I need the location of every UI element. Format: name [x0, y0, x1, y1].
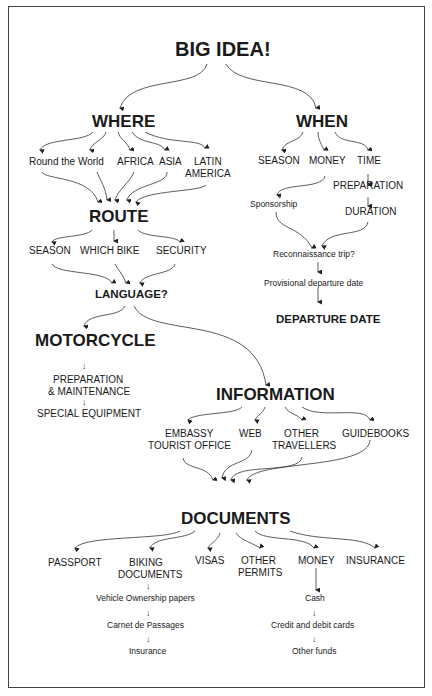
when-sponsorship: Sponsorship [250, 200, 297, 210]
route-node: ROUTE [89, 207, 149, 227]
arrow-icon: ↓ [146, 582, 151, 591]
doc-visas: VISAS [195, 555, 224, 567]
information-node: INFORMATION [216, 385, 335, 405]
doc-biking: BIKING [129, 557, 163, 569]
doc-biking-documents: DOCUMENTS [118, 569, 182, 581]
doc-permits: PERMITS [238, 567, 282, 579]
where-round-the-world: Round the World [29, 156, 104, 168]
provisional-departure-date: Provisional departure date [264, 279, 363, 289]
departure-date: DEPARTURE DATE [276, 313, 380, 326]
documents-node: DOCUMENTS [181, 509, 291, 529]
money-cash: Cash [305, 594, 325, 604]
language-node: LANGUAGE? [95, 288, 168, 301]
doc-money: MONEY [298, 555, 335, 567]
biking-insurance: Insurance [129, 647, 166, 657]
biking-carnet: Carnet de Passages [107, 621, 184, 631]
arrow-icon: ↓ [312, 609, 317, 618]
arrow-icon: ↓ [146, 635, 151, 644]
route-security: SECURITY [156, 245, 207, 257]
when-duration: DURATION [345, 206, 396, 218]
motorcycle-special-equipment: SPECIAL EQUIPMENT [37, 408, 141, 420]
when-node: WHEN [296, 112, 348, 132]
where-america: AMERICA [185, 168, 231, 180]
where-node: WHERE [92, 112, 155, 132]
when-money: MONEY [309, 155, 346, 167]
when-time: TIME [357, 155, 381, 167]
info-guidebooks: GUIDEBOOKS [342, 428, 409, 440]
route-which-bike: WHICH BIKE [80, 245, 139, 257]
doc-other: OTHER [241, 555, 276, 567]
motorcycle-node: MOTORCYCLE [35, 331, 156, 351]
info-travellers: TRAVELLERS [272, 440, 336, 452]
arrow-icon: ↓ [312, 635, 317, 644]
motorcycle-preparation: PREPARATION [53, 374, 123, 386]
info-other: OTHER [284, 428, 319, 440]
info-web: WEB [239, 428, 262, 440]
arrow-icon: ↓ [82, 362, 87, 371]
where-latin: LATIN [194, 156, 222, 168]
when-season: SEASON [258, 155, 300, 167]
biking-vehicle-ownership: Vehicle Ownership papers [96, 594, 195, 604]
arrow-icon: ↓ [146, 609, 151, 618]
reconnaissance-trip: Reconnaissance trip? [273, 250, 355, 260]
info-embassy: EMBASSY [165, 428, 213, 440]
where-asia: ASIA [159, 156, 182, 168]
doc-insurance: INSURANCE [346, 555, 405, 567]
when-preparation: PREPARATION [333, 180, 403, 192]
money-credit-debit: Credit and debit cards [271, 621, 354, 631]
arrow-icon: ↓ [82, 398, 87, 407]
doc-passport: PASSPORT [48, 557, 102, 569]
big-idea-title: BIG IDEA! [175, 38, 271, 61]
info-tourist-office: TOURIST OFFICE [148, 440, 231, 452]
money-other-funds: Other funds [292, 647, 336, 657]
route-season: SEASON [29, 245, 71, 257]
where-africa: AFRICA [117, 156, 154, 168]
motorcycle-maintenance: & MAINTENANCE [48, 386, 130, 398]
